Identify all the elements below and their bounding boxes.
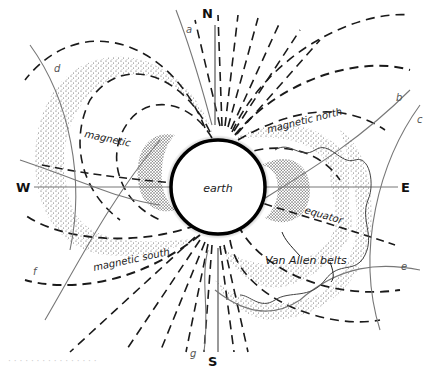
earth-label: earth — [203, 182, 232, 195]
trajectory-label-a: a — [186, 24, 192, 35]
van-allen-belts-label: Van Allen belts — [265, 254, 347, 267]
trajectory-label-c: c — [417, 114, 423, 125]
trajectory-label-e: e — [401, 261, 407, 272]
diagram-canvas: earth N S E W magnetic magnetic north ma… — [0, 0, 436, 373]
caption-faded: · · · · · · · · · · · · · · · · — [8, 356, 428, 370]
van-allen-pointer-inner — [282, 232, 300, 256]
trajectory-label-b: b — [396, 92, 402, 103]
magnetic-label: magnetic — [84, 128, 133, 149]
east-label: E — [401, 180, 410, 195]
trajectory-label-d: d — [54, 63, 61, 74]
trajectory-label-f: f — [33, 266, 38, 277]
west-label: W — [16, 180, 30, 195]
magnetosphere-diagram: earth N S E W magnetic magnetic north ma… — [0, 0, 436, 373]
north-label: N — [202, 6, 213, 21]
trajectory-c — [370, 105, 420, 330]
